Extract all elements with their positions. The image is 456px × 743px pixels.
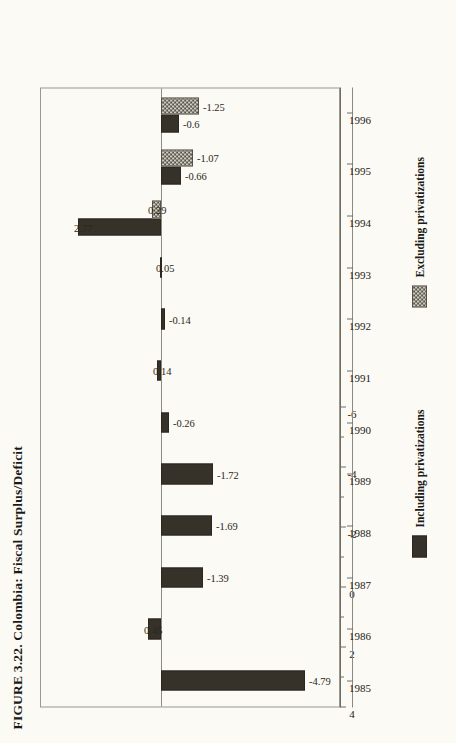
rotated-page: FIGURE 3.22. Colombia: Fiscal Surplus/De… xyxy=(0,0,456,743)
bar-group: -0.14 xyxy=(41,293,339,345)
value-tick xyxy=(340,646,346,647)
bar-value-label: -0.26 xyxy=(173,417,195,428)
legend-label: Including privatizations xyxy=(414,409,426,527)
category-tick-label: 1993 xyxy=(349,268,371,280)
value-tick xyxy=(340,586,346,587)
bar-group: -1.69 xyxy=(41,499,339,551)
bar-value-label: 0.05 xyxy=(156,262,174,273)
plot-area: -4.790.45-1.39-1.69-1.72-0.260.14-0.140.… xyxy=(40,87,340,707)
value-minor-tick xyxy=(340,676,344,677)
bar-group: 0.14 xyxy=(41,344,339,396)
bar-group: 0.05 xyxy=(41,241,339,293)
value-tick xyxy=(340,526,346,527)
legend-item: Including privatizations xyxy=(412,409,427,557)
bar-value-label: 0.29 xyxy=(148,204,166,215)
value-tick xyxy=(340,406,346,407)
bar-group: -0.6-1.25 xyxy=(41,86,339,138)
value-minor-tick xyxy=(340,616,344,617)
legend-swatch-including-icon xyxy=(412,535,427,557)
category-axis-line xyxy=(352,87,353,707)
bar-including-privatizations xyxy=(161,463,213,484)
bar-including-privatizations xyxy=(161,308,165,329)
value-tick-label: 4 xyxy=(349,707,355,719)
value-tick xyxy=(340,466,346,467)
bar-including-privatizations xyxy=(161,166,181,184)
bar-value-label: -4.79 xyxy=(309,675,331,686)
category-tick-label: 1989 xyxy=(349,475,371,487)
bar-group: -0.26 xyxy=(41,396,339,448)
bar-group: -4.79 xyxy=(41,654,339,706)
bar-value-label: -0.6 xyxy=(183,118,200,129)
category-tick-label: 1986 xyxy=(349,630,371,642)
bar-value-label: -1.07 xyxy=(197,152,219,163)
value-minor-tick xyxy=(340,496,344,497)
bar-including-privatizations xyxy=(161,670,305,691)
value-tick xyxy=(340,706,346,707)
category-tick-label: 1985 xyxy=(349,681,371,693)
bar-including-privatizations xyxy=(161,567,203,588)
value-minor-tick xyxy=(340,436,344,437)
bar-group: -0.66-1.07 xyxy=(41,138,339,190)
value-axis-line xyxy=(340,87,341,707)
bar-group: -1.39 xyxy=(41,551,339,603)
value-minor-tick xyxy=(340,556,344,557)
bar-value-label: -0.66 xyxy=(185,170,207,181)
category-tick-label: 1996 xyxy=(349,113,371,125)
legend-label: Excluding privatizations xyxy=(414,157,426,277)
bar-value-label: -1.69 xyxy=(216,520,238,531)
bar-value-label: -1.39 xyxy=(207,572,229,583)
legend-swatch-excluding-icon xyxy=(412,285,427,307)
bar-value-label: 0.14 xyxy=(153,365,171,376)
bar-excluding-privatizations xyxy=(161,97,199,115)
bar-including-privatizations xyxy=(161,515,212,536)
legend-item: Excluding privatizations xyxy=(412,157,427,307)
category-tick-label: 1990 xyxy=(349,423,371,435)
bar-group: 0.45 xyxy=(41,603,339,655)
bar-group: 2.770.29 xyxy=(41,189,339,241)
bar-including-privatizations xyxy=(161,412,169,433)
figure-container: FIGURE 3.22. Colombia: Fiscal Surplus/De… xyxy=(0,0,456,743)
category-tick-label: 1991 xyxy=(349,371,371,383)
bar-value-label: 0.45 xyxy=(144,624,162,635)
bar-value-label: 2.77 xyxy=(74,222,92,233)
category-tick-label: 1992 xyxy=(349,320,371,332)
category-tick-label: 1988 xyxy=(349,526,371,538)
category-tick-label: 1994 xyxy=(349,216,371,228)
category-tick-label: 1987 xyxy=(349,578,371,590)
bar-value-label: -1.25 xyxy=(203,101,225,112)
figure-title: FIGURE 3.22. Colombia: Fiscal Surplus/De… xyxy=(10,445,26,729)
bar-group: -1.72 xyxy=(41,448,339,500)
bar-including-privatizations xyxy=(161,114,179,132)
bar-value-label: -0.14 xyxy=(169,314,191,325)
category-tick-label: 1995 xyxy=(349,165,371,177)
bar-value-label: -1.72 xyxy=(217,469,239,480)
bar-excluding-privatizations xyxy=(161,149,193,167)
chart-legend: Including privatizationsExcluding privat… xyxy=(408,87,448,707)
